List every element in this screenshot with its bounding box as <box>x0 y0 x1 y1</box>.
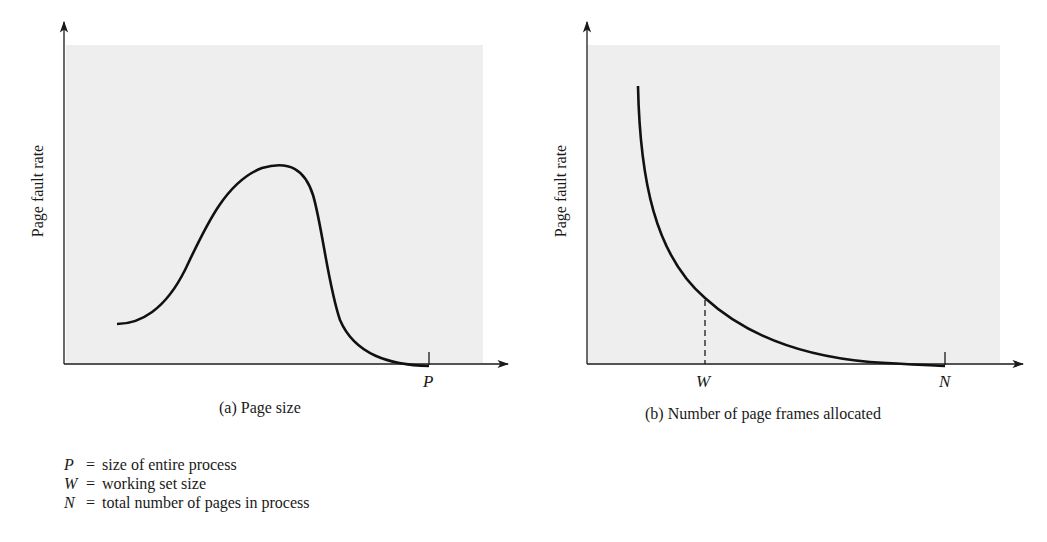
chart-a-p-tick-label: P <box>423 372 433 392</box>
legend-row-n: N = total number of pages in process <box>64 493 310 512</box>
legend-text: total number of pages in process <box>102 493 310 512</box>
legend-equals: = <box>86 455 102 474</box>
chart-b-caption: (b) Number of page frames allocated <box>645 405 881 423</box>
legend-row-w: W = working set size <box>64 474 310 493</box>
legend-symbol: W <box>64 474 86 493</box>
chart-b-plot-background <box>588 45 1000 363</box>
legend-equals: = <box>86 493 102 512</box>
chart-a-y-axis-label: Page fault rate <box>29 141 47 241</box>
chart-b-y-axis-label: Page fault rate <box>552 141 570 241</box>
chart-b <box>587 22 1023 366</box>
chart-a-plot-background <box>66 45 483 363</box>
chart-a-caption: (a) Page size <box>219 399 301 417</box>
figure-legend: P = size of entire process W = working s… <box>64 455 310 512</box>
chart-b-w-tick-label: W <box>696 372 710 392</box>
legend-text: working set size <box>102 474 206 493</box>
legend-equals: = <box>86 474 102 493</box>
legend-symbol: N <box>64 493 86 512</box>
chart-b-n-tick-label: N <box>939 372 950 392</box>
legend-text: size of entire process <box>102 455 237 474</box>
legend-row-p: P = size of entire process <box>64 455 310 474</box>
chart-a <box>64 22 508 366</box>
legend-symbol: P <box>64 455 86 474</box>
